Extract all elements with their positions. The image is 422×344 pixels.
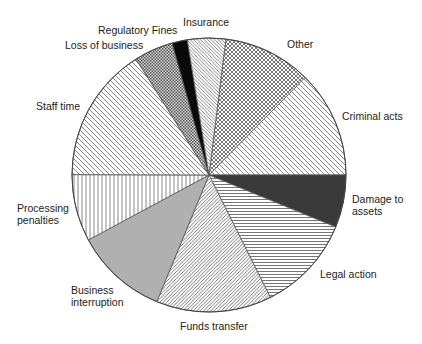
pie-slices (72, 38, 346, 312)
label-processing-penalties: Processing penalties (17, 202, 69, 226)
label-other: Other (287, 38, 313, 50)
label-processing-line2: penalties (17, 214, 59, 226)
label-regulatory-fines: Regulatory Fines (98, 24, 177, 36)
label-damage-line1: Damage to (352, 193, 403, 205)
label-damage-to-assets: Damage to assets (352, 193, 403, 217)
label-processing-line1: Processing (17, 202, 69, 214)
label-criminal-acts: Criminal acts (342, 110, 403, 122)
label-damage-line2: assets (352, 205, 382, 217)
label-staff-time: Staff time (36, 100, 80, 112)
label-business-line1: Business (71, 284, 114, 296)
label-business-interruption: Business interruption (71, 284, 124, 308)
label-legal-action: Legal action (320, 268, 377, 280)
label-funds-transfer: Funds transfer (180, 320, 248, 332)
label-insurance: Insurance (183, 16, 229, 28)
label-business-line2: interruption (71, 296, 124, 308)
pie-chart (0, 0, 422, 344)
label-loss-of-business: Loss of business (65, 39, 143, 51)
